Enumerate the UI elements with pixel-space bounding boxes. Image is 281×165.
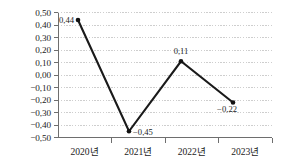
y-tick-label-0: 0,50 (35, 8, 51, 18)
data-point-2020 (76, 18, 81, 23)
data-point-2022 (179, 59, 184, 64)
y-tick-label-2: 0,30 (35, 33, 51, 43)
data-label-2021: −0,45 (133, 127, 153, 137)
line-chart: 0,50 0,40 0,30 0,20 0,10 0,00 −0,10 −0,2… (0, 0, 281, 165)
y-tick-label-8: −0,30 (30, 108, 51, 118)
y-tick-label-7: −0,20 (30, 95, 51, 105)
chart-canvas: 0,50 0,40 0,30 0,20 0,10 0,00 −0,10 −0,2… (0, 0, 281, 165)
y-tick-label-9: −0,40 (30, 120, 51, 130)
x-tick-label-2020: 2020년 (70, 146, 98, 157)
y-tick-label-1: 0,40 (35, 20, 51, 30)
x-tick-label-2023: 2023년 (231, 146, 259, 157)
y-tick-label-6: −0,10 (30, 83, 51, 93)
data-label-2023: −0,22 (217, 104, 237, 114)
data-label-2020: 0,44 (59, 15, 75, 25)
data-label-2022: 0,11 (174, 46, 189, 56)
x-tick-label-2022: 2022년 (178, 146, 206, 157)
y-tick-label-5: 0,00 (35, 70, 51, 80)
y-tick-label-4: 0,10 (35, 58, 51, 68)
y-tick-label-3: 0,20 (35, 45, 51, 55)
x-tick-label-2021: 2021년 (124, 146, 152, 157)
y-tick-label-10: −0,50 (30, 133, 51, 143)
data-point-2021 (127, 129, 132, 134)
